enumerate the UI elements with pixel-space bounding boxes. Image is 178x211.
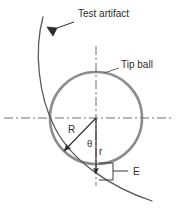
label-radius-R: R: [68, 124, 75, 135]
label-offset-E: E: [133, 166, 140, 177]
label-tip-ball: Tip ball: [121, 59, 153, 70]
technical-diagram-svg: Test artifact Tip ball R θ r E: [0, 0, 178, 211]
test-artifact-leader-line: [57, 22, 74, 28]
label-test-artifact: Test artifact: [78, 8, 129, 19]
label-angle-theta: θ: [87, 138, 92, 149]
offset-E-bracket: [99, 163, 113, 180]
test-artifact-arrowhead: [47, 27, 57, 36]
tip-ball-leader-line: [104, 68, 119, 73]
label-radius-r: r: [99, 146, 103, 157]
diagram-container: Test artifact Tip ball R θ r E: [0, 0, 178, 211]
